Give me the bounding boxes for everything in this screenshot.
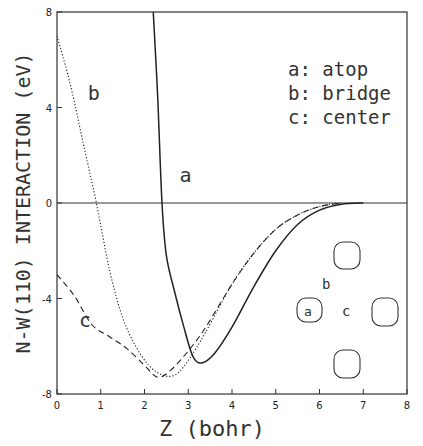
inset-label-a: a [304, 304, 312, 319]
x-tick-label: 0 [54, 400, 60, 411]
site-inset: abc [297, 242, 398, 378]
curve-label-a: a [180, 163, 192, 187]
x-tick-label: 1 [98, 400, 104, 411]
x-tick-label: 8 [404, 400, 410, 411]
x-axis-label: Z (bohr) [159, 416, 265, 441]
curve-label-c: c [79, 308, 91, 332]
x-tick-label: 6 [316, 400, 322, 411]
chart: 012345678-8-4048Z (bohr)N-W(110) INTERAC… [0, 0, 423, 446]
legend: a: atopb: bridgec: center [288, 58, 391, 128]
atom-bottom [334, 350, 360, 378]
legend-item-bridge: b: bridge [288, 82, 391, 104]
atom-top [334, 242, 360, 269]
y-tick-label: 4 [46, 103, 52, 114]
x-tick-label: 7 [360, 400, 366, 411]
legend-item-center: c: center [288, 106, 391, 128]
curve-label-b: b [88, 81, 100, 105]
x-tick-label: 2 [141, 400, 147, 411]
legend-item-atop: a: atop [288, 58, 368, 80]
atom-right [372, 298, 398, 326]
inset-label-b: b [322, 276, 330, 292]
y-axis-label: N-W(110) INTERACTION (eV) [11, 52, 35, 353]
x-tick-label: 5 [273, 400, 279, 411]
y-tick-label: -8 [42, 389, 52, 400]
x-tick-label: 3 [185, 400, 191, 411]
series-center [57, 203, 341, 377]
inset-label-c: c [342, 303, 350, 319]
y-tick-label: 0 [46, 198, 52, 209]
y-tick-label: 8 [46, 7, 52, 18]
x-tick-label: 4 [229, 400, 235, 411]
y-tick-label: -4 [42, 294, 52, 305]
